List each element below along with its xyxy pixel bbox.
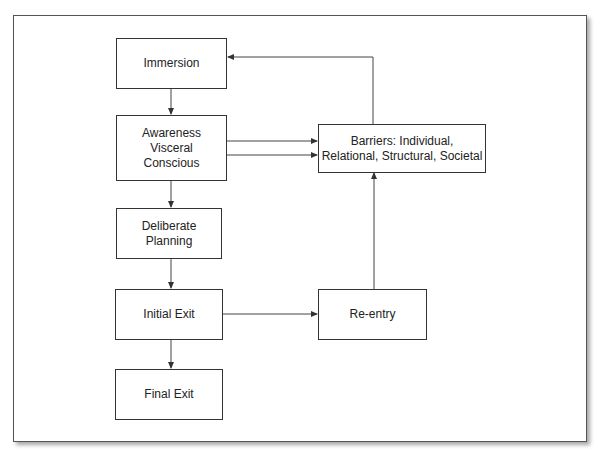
connector-arrows <box>0 0 601 457</box>
node-label: Initial Exit <box>143 307 194 322</box>
node-label: Final Exit <box>144 387 193 402</box>
node-final-exit: Final Exit <box>115 369 223 420</box>
node-label: Immersion <box>143 56 199 71</box>
node-label: Deliberate Planning <box>142 219 197 249</box>
node-re-entry: Re-entry <box>318 289 427 340</box>
node-label: Re-entry <box>349 307 395 322</box>
node-initial-exit: Initial Exit <box>115 289 223 340</box>
node-deliberate-planning: Deliberate Planning <box>116 208 222 259</box>
node-awareness: Awareness Visceral Conscious <box>116 115 227 181</box>
node-label: Barriers: Individual, Relational, Struct… <box>322 134 483 164</box>
node-immersion: Immersion <box>116 38 227 89</box>
node-label: Awareness Visceral Conscious <box>142 126 201 171</box>
node-barriers: Barriers: Individual, Relational, Struct… <box>318 124 486 173</box>
